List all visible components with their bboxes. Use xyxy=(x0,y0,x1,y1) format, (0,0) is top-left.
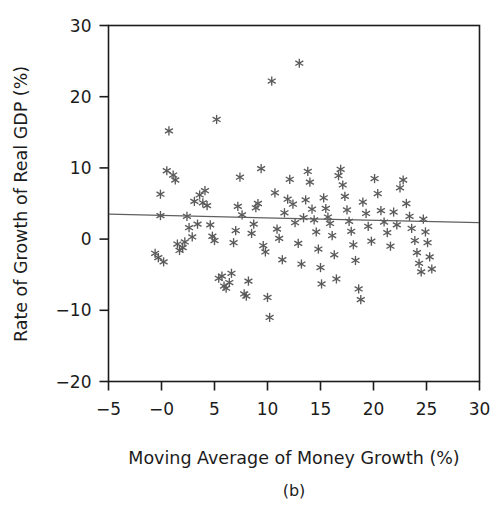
x-tick-label: 15 xyxy=(310,399,332,419)
x-tick-label: 5 xyxy=(209,399,220,419)
y-tick-label: 30 xyxy=(70,16,92,36)
x-tick-label: 20 xyxy=(363,399,385,419)
x-tick-label: −0 xyxy=(149,399,174,419)
scatter-plot-figure: Rate of Growth of Real GDP (%) Moving Av… xyxy=(0,0,502,520)
y-tick-label: 20 xyxy=(70,87,92,107)
x-tick-label: 30 xyxy=(469,399,491,419)
x-axis-title: Moving Average of Money Growth (%) xyxy=(128,448,459,468)
y-tick-label: −10 xyxy=(56,300,92,320)
figure-caption: (b) xyxy=(283,481,306,500)
y-axis-title: Rate of Growth of Real GDP (%) xyxy=(11,66,31,342)
y-tick-label: 0 xyxy=(81,229,92,249)
x-tick-label: 25 xyxy=(416,399,438,419)
y-tick-label: 10 xyxy=(70,158,92,178)
chart-background xyxy=(0,0,502,520)
chart-canvas: Rate of Growth of Real GDP (%) Moving Av… xyxy=(0,0,502,520)
x-tick-label: 10 xyxy=(257,399,279,419)
y-tick-label: −20 xyxy=(56,372,92,392)
x-tick-label: −5 xyxy=(96,399,121,419)
